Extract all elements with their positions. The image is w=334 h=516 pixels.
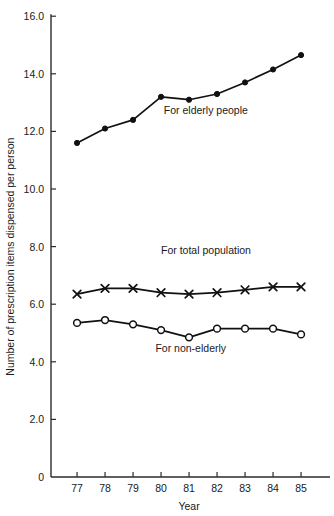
data-point-marker (298, 52, 303, 57)
data-point-marker (130, 117, 135, 122)
y-tick-label: 2.0 (29, 413, 44, 425)
data-point-marker (186, 97, 191, 102)
y-tick-label: 16.0 (24, 10, 45, 22)
chart-figure: 02.04.06.08.010.012.014.016.077787980818… (0, 0, 334, 516)
series-for-total-population (73, 283, 305, 298)
data-point-marker (130, 321, 137, 328)
line-chart-canvas: 02.04.06.08.010.012.014.016.077787980818… (0, 0, 334, 516)
y-tick-label: 14.0 (24, 68, 45, 80)
y-tick-label: 12.0 (24, 125, 45, 137)
y-tick-label: 8.0 (29, 241, 44, 253)
data-point-marker (270, 325, 277, 332)
x-tick-label: 84 (267, 482, 279, 494)
x-tick-label: 78 (99, 482, 111, 494)
x-tick-label: 85 (295, 482, 307, 494)
series-annotation-label: For elderly people (164, 104, 248, 116)
data-point-marker (298, 331, 305, 338)
data-point-marker (158, 94, 163, 99)
x-tick-label: 83 (239, 482, 251, 494)
data-point-marker (102, 126, 107, 131)
x-tick-label: 77 (71, 482, 83, 494)
data-point-marker (74, 140, 79, 145)
series-annotation-label: For non-elderly (155, 342, 226, 354)
y-tick-label: 6.0 (29, 298, 44, 310)
x-tick-label: 79 (127, 482, 139, 494)
data-point-marker (214, 325, 221, 332)
data-point-marker (270, 67, 275, 72)
y-tick-label: 4.0 (29, 356, 44, 368)
y-tick-label: 10.0 (24, 183, 45, 195)
x-tick-label: 80 (155, 482, 167, 494)
y-axis-title: Number of prescription items dispensed p… (4, 137, 16, 375)
data-point-marker (242, 80, 247, 85)
data-point-marker (74, 320, 81, 327)
x-axis-title: Year (178, 500, 200, 512)
data-point-marker (158, 327, 165, 334)
data-point-marker (214, 91, 219, 96)
data-point-marker (102, 317, 109, 324)
series-for-non-elderly (74, 317, 305, 341)
data-point-marker (242, 325, 249, 332)
series-annotation-label: For total population (161, 244, 251, 256)
x-tick-label: 82 (211, 482, 223, 494)
series-for-elderly-people (74, 52, 303, 145)
y-tick-label: 0 (38, 471, 44, 483)
data-point-marker (186, 334, 193, 341)
x-tick-label: 81 (183, 482, 195, 494)
